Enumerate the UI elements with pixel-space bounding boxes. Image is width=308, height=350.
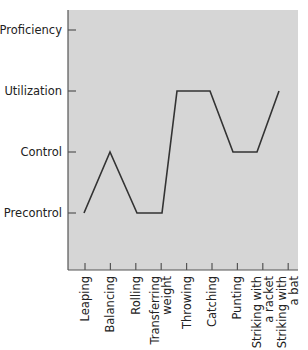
svg-text:Throwing: Throwing	[180, 276, 194, 330]
svg-text:Rolling: Rolling	[129, 276, 143, 315]
svg-text:Catching: Catching	[205, 276, 219, 327]
y-level-label: Proficiency	[0, 23, 62, 37]
y-axis-labels: PrecontrolControlUtilizationProficiency	[0, 23, 62, 220]
svg-text:Balancing: Balancing	[103, 276, 117, 333]
x-category-label: Balancing	[103, 276, 117, 333]
svg-text:a bat: a bat	[287, 276, 301, 306]
svg-text:Leaping: Leaping	[78, 276, 92, 321]
x-category-label: Punting	[230, 276, 244, 320]
plot-area	[68, 10, 298, 270]
y-level-label: Control	[20, 145, 62, 159]
y-level-label: Utilization	[4, 84, 62, 98]
x-category-label: Throwing	[180, 276, 194, 330]
x-category-label: Leaping	[78, 276, 92, 321]
x-category-label: Transferringweight	[148, 276, 174, 346]
y-level-label: Precontrol	[4, 206, 62, 220]
svg-text:Punting: Punting	[230, 276, 244, 320]
x-category-label: Catching	[205, 276, 219, 327]
svg-text:weight: weight	[160, 276, 174, 315]
skill-level-line-chart: PrecontrolControlUtilizationProficiency …	[0, 0, 308, 350]
x-category-label: Striking witha bat	[275, 276, 301, 349]
x-axis-labels: LeapingBalancingRollingTransferringweigh…	[78, 276, 301, 349]
x-category-label: Striking witha racket	[250, 276, 276, 349]
svg-text:a racket: a racket	[262, 276, 276, 323]
x-category-label: Rolling	[129, 276, 143, 315]
